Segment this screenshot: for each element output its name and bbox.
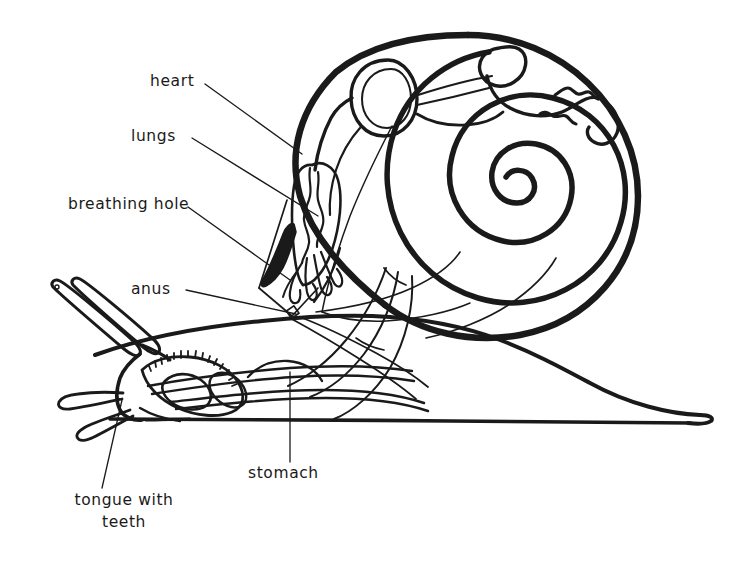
canvas-background [0, 0, 747, 568]
snail-illustration [0, 0, 747, 568]
label-heart: heart [150, 70, 194, 92]
snail-anatomy-diagram: heart lungs breathing hole anus stomach … [0, 0, 747, 568]
label-breathing-hole: breathing hole [68, 193, 189, 215]
label-anus: anus [131, 278, 171, 300]
label-tongue-with-teeth: tongue with teeth [64, 489, 184, 534]
label-stomach: stomach [248, 462, 319, 484]
label-lungs: lungs [131, 125, 176, 147]
